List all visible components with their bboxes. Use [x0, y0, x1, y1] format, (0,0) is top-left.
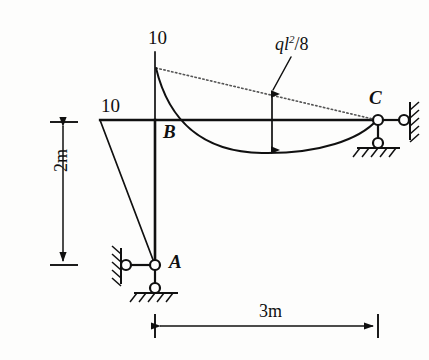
dimension-height-2m	[50, 122, 78, 265]
support-a-wall-pin	[121, 260, 131, 270]
support-c	[353, 102, 419, 157]
support-c-ground-pin	[373, 138, 383, 148]
parabolic-moment-curve	[156, 68, 377, 153]
joint-label-c: C	[369, 88, 382, 107]
ql2-8-moment-label: ql2/8	[275, 34, 309, 53]
ql2-8-numerator: ql	[275, 34, 289, 54]
joint-label-b: B	[163, 122, 176, 141]
support-a-ground-hatching	[130, 293, 173, 302]
column-moment-diagram-line	[100, 120, 155, 265]
moment-value-top-label: 10	[148, 28, 167, 47]
support-c-ground-hatching	[353, 148, 396, 157]
support-a-ground-pin	[150, 283, 160, 293]
ql2-8-denominator: /8	[295, 34, 309, 54]
moment-closing-dotted-line	[156, 68, 377, 120]
structural-diagram: 10 10 B A C ql2/8 2m 3m	[0, 0, 429, 360]
support-a-wall-hatching	[112, 246, 121, 286]
support-a-joint-pin	[150, 260, 160, 270]
support-c-wall-hatching	[410, 102, 419, 142]
ql2-8-leader-line	[273, 57, 291, 90]
support-c-joint-pin	[373, 115, 383, 125]
frame-drawing	[0, 0, 429, 360]
dimension-height-label: 2m	[52, 149, 70, 172]
support-c-wall-pin	[399, 115, 409, 125]
joint-label-a: A	[169, 252, 182, 271]
dimension-span-label: 3m	[259, 302, 282, 320]
moment-value-left-label: 10	[101, 96, 120, 115]
